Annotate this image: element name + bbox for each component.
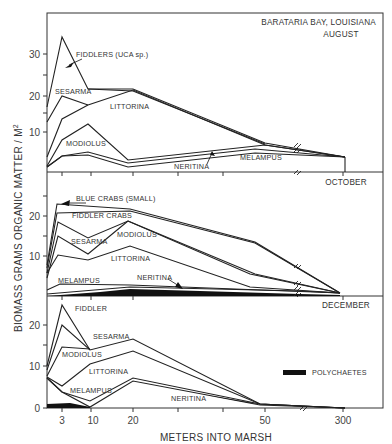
xtick-10: 10 [87, 415, 99, 426]
line-aug-sesarma [47, 96, 88, 122]
label-aug-neritina: NERITINA [174, 162, 209, 171]
label-oct-modiolus: MODIOLUS [117, 230, 157, 239]
y-ticks [43, 54, 47, 408]
month-october: OCTOBER [325, 178, 367, 187]
y-axis-title-group: BIOMASS GRAMS ORGANIC MATTER / M2 [12, 124, 24, 332]
ytick-dec-20: 20 [29, 320, 41, 331]
xtick-50: 50 [259, 415, 271, 426]
biomass-chart: 30 20 10 20 10 20 10 0 3 10 20 50 300 ME… [0, 0, 392, 444]
line-oct-sesarma-tail [128, 221, 340, 293]
month-august: AUGUST [323, 30, 358, 39]
ytick-aug-20: 20 [29, 91, 41, 102]
y-axis-title-sup: 2 [12, 124, 19, 128]
line-oct-littorina [47, 246, 340, 293]
xtick-3: 3 [59, 415, 65, 426]
label-oct-sesarma: SESARMA [71, 237, 108, 246]
line-aug-fiddlers-2 [88, 89, 265, 144]
label-oct-fiddler-crabs: FIDDLER CRABS [72, 211, 132, 220]
label-dec-neritina: NERITINA [171, 394, 206, 403]
label-dec-modiolus: MODIOLUS [62, 350, 102, 359]
label-oct-neritina: NERITINA [137, 273, 172, 282]
label-oct-littorina: LITTORINA [111, 254, 150, 263]
ytick-dec-0: 0 [34, 403, 40, 414]
y-axis-title: BIOMASS GRAMS ORGANIC MATTER / M [13, 128, 24, 332]
svg-text:BIOMASS GRAMS ORGANIC MATTER /: BIOMASS GRAMS ORGANIC MATTER / M2 [12, 124, 24, 332]
label-dec-melampus: MELAMPUS [70, 386, 112, 395]
ytick-oct-20: 20 [29, 211, 41, 222]
xtick-20: 20 [127, 415, 139, 426]
label-dec-fiddler: FIDDLER [75, 304, 107, 313]
label-aug-melampus: MELAMPUS [240, 153, 282, 162]
month-december: DECEMBER [322, 301, 370, 310]
site-title: BARATARIA BAY, LOUISIANA [261, 18, 376, 27]
label-dec-littorina: LITTORINA [89, 367, 128, 376]
label-aug-fiddlers: FIDDLERS (UCA sp.) [76, 50, 148, 59]
label-oct-melampus: MELAMPUS [58, 276, 100, 285]
ytick-aug-10: 10 [29, 127, 41, 138]
xtick-300: 300 [335, 415, 352, 426]
legend-polychaetes-swatch [283, 370, 306, 375]
label-aug-modiolus: MODIOLUS [66, 139, 106, 148]
label-aug-littorina: LITTORINA [110, 102, 149, 111]
line-oct-sesarma [47, 221, 128, 278]
ytick-dec-10: 10 [29, 361, 41, 372]
ytick-aug-30: 30 [29, 49, 41, 60]
label-dec-sesarma: SESARMA [93, 332, 130, 341]
x-axis-title: METERS INTO MARSH [160, 432, 272, 443]
ytick-oct-10: 10 [29, 251, 41, 262]
label-oct-blue-crabs: BLUE CRABS (SMALL) [76, 194, 156, 203]
legend-polychaetes-label: POLYCHAETES [312, 368, 367, 377]
label-aug-sesarma: SESARMA [55, 87, 92, 96]
